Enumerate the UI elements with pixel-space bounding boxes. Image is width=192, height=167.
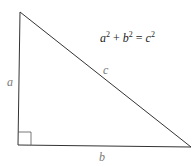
label-b: b	[99, 150, 105, 164]
side-a-line	[18, 12, 20, 145]
label-c: c	[103, 63, 109, 77]
side-b-line	[18, 145, 191, 147]
right-angle-marker	[18, 132, 31, 145]
label-a: a	[7, 75, 13, 89]
pythagorean-formula: a2 + b2 = c2	[100, 30, 155, 45]
formula-exp-c: 2	[151, 30, 155, 39]
formula-equals: =	[133, 31, 146, 45]
formula-plus: +	[110, 31, 123, 45]
right-triangle-diagram: a b c a2 + b2 = c2	[0, 0, 192, 167]
